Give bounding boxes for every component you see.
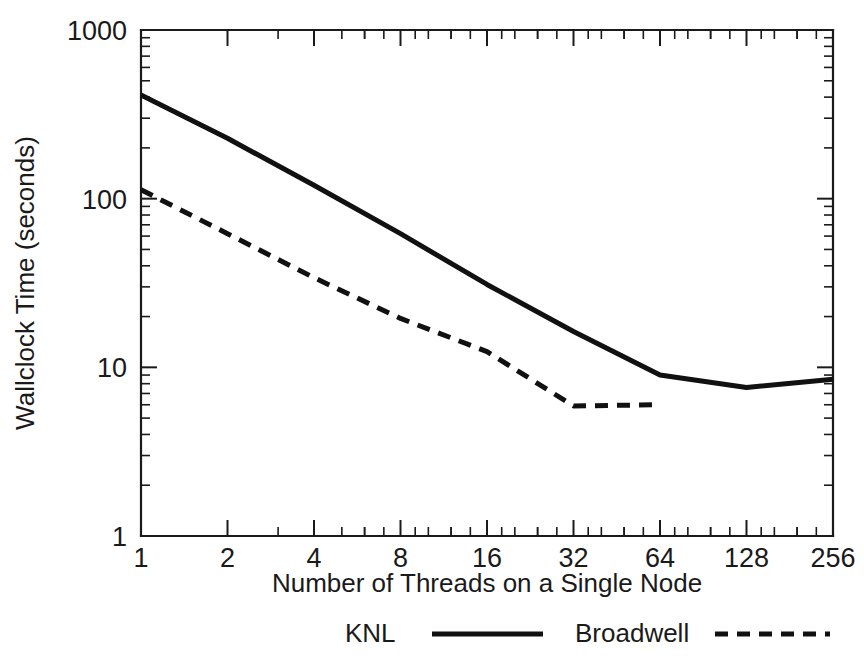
y-tick-label: 100 — [82, 185, 127, 215]
line-chart-canvas: 1000100101 1248163264128256 Number of Th… — [0, 0, 864, 656]
y-axis-tick-labels: 1000100101 — [67, 16, 127, 552]
chart-figure: 1000100101 1248163264128256 Number of Th… — [0, 0, 864, 656]
y-tick-label: 10 — [97, 353, 127, 383]
legend-label-knl: KNL — [345, 618, 396, 648]
x-tick-label: 256 — [810, 543, 855, 573]
chart-legend: KNL Broadwell — [345, 618, 830, 648]
x-tick-label: 128 — [724, 543, 769, 573]
y-tick-label: 1 — [112, 522, 127, 552]
legend-label-broadwell: Broadwell — [575, 618, 689, 648]
series-group — [141, 95, 833, 406]
x-axis-title: Number of Threads on a Single Node — [272, 568, 702, 598]
x-tick-label: 1 — [133, 543, 148, 573]
series-line-broadwell — [141, 190, 660, 406]
y-tick-label: 1000 — [67, 16, 127, 46]
y-axis-title: Wallclock Time (seconds) — [10, 136, 40, 430]
x-tick-label: 2 — [220, 543, 235, 573]
